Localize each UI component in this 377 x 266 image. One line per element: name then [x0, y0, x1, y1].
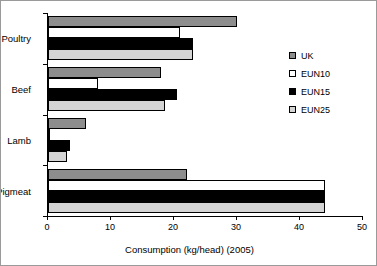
- y-tick: [43, 115, 47, 116]
- bar-poultry-eun25: [48, 49, 193, 60]
- bar-chart: 01020304050 PoultryBeefLambPigmeat Consu…: [0, 0, 377, 266]
- x-tick: [47, 216, 48, 220]
- category-label-beef: Beef: [11, 84, 31, 95]
- bar-poultry-eun15: [48, 38, 193, 49]
- x-tick-label: 50: [357, 222, 367, 232]
- legend-label: EUN25: [301, 105, 330, 115]
- bar-lamb-eun25: [48, 151, 67, 162]
- bar-pigmeat-eun10: [48, 180, 325, 191]
- y-tick: [43, 64, 47, 65]
- legend-swatch-icon: [289, 106, 296, 113]
- legend-item-eun15[interactable]: EUN15: [289, 83, 330, 100]
- legend-swatch-icon: [289, 88, 296, 95]
- x-axis-title: Consumption (kg/head) (2005): [1, 244, 377, 255]
- bar-beef-uk: [48, 67, 161, 78]
- x-tick-label: 30: [231, 222, 241, 232]
- x-tick: [299, 216, 300, 220]
- bar-beef-eun25: [48, 100, 165, 111]
- legend-item-eun25[interactable]: EUN25: [289, 101, 330, 118]
- bar-pigmeat-uk: [48, 169, 187, 180]
- bar-lamb-eun15: [48, 140, 70, 151]
- x-tick-label: 0: [44, 222, 49, 232]
- y-tick: [43, 13, 47, 14]
- x-tick-label: 40: [294, 222, 304, 232]
- bar-poultry-uk: [48, 16, 237, 27]
- bar-pigmeat-eun15: [48, 191, 325, 202]
- x-tick-label: 10: [105, 222, 115, 232]
- bar-pigmeat-eun25: [48, 202, 325, 213]
- bar-beef-eun10: [48, 78, 98, 89]
- bar-poultry-eun10: [48, 27, 180, 38]
- legend-swatch-icon: [289, 70, 296, 77]
- x-tick: [236, 216, 237, 220]
- bar-lamb-eun10: [48, 129, 50, 140]
- legend-label: EUN10: [301, 69, 330, 79]
- bar-lamb-uk: [48, 118, 86, 129]
- bar-beef-eun15: [48, 89, 177, 100]
- legend-label: EUN15: [301, 87, 330, 97]
- x-tick: [362, 216, 363, 220]
- x-tick: [173, 216, 174, 220]
- y-tick: [43, 216, 47, 217]
- category-label-pigmeat: Pigmeat: [0, 185, 31, 196]
- legend-label: UK: [301, 51, 314, 61]
- category-label-lamb: Lamb: [7, 134, 31, 145]
- y-tick: [43, 165, 47, 166]
- legend: UKEUN10EUN15EUN25: [289, 47, 330, 119]
- legend-item-eun10[interactable]: EUN10: [289, 65, 330, 82]
- legend-item-uk[interactable]: UK: [289, 47, 330, 64]
- x-axis-line: [47, 216, 362, 217]
- legend-swatch-icon: [289, 52, 296, 59]
- x-tick: [110, 216, 111, 220]
- category-label-poultry: Poultry: [1, 33, 31, 44]
- x-tick-label: 20: [168, 222, 178, 232]
